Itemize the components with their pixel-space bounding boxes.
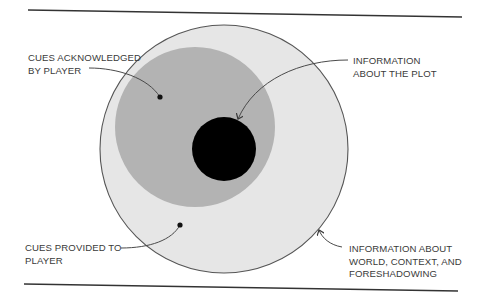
bottom-rule-line <box>24 284 458 291</box>
label-info-world: INFORMATION ABOUT WORLD, CONTEXT, AND FO… <box>349 243 462 281</box>
arrow-info-world <box>319 230 342 247</box>
top-rule-line <box>28 10 462 17</box>
label-cues-provided-line2: PLAYER <box>25 255 122 268</box>
label-cues-acknowledged: CUES ACKNOWLEDGED BY PLAYER <box>28 52 141 77</box>
label-cues-acknowledged-line2: BY PLAYER <box>28 65 141 78</box>
label-cues-provided: CUES PROVIDED TO PLAYER <box>25 242 122 267</box>
dot-marker-cues-acknowledged <box>157 94 162 99</box>
label-info-world-line3: FORESHADOWING <box>349 268 462 281</box>
label-info-world-line2: WORLD, CONTEXT, AND <box>349 256 462 269</box>
label-cues-acknowledged-line1: CUES ACKNOWLEDGED <box>28 52 141 65</box>
label-cues-provided-line1: CUES PROVIDED TO <box>25 242 122 255</box>
label-info-world-line1: INFORMATION ABOUT <box>349 243 462 256</box>
inner-circle-plot-information <box>192 117 256 181</box>
label-info-plot-line1: INFORMATION <box>353 55 437 68</box>
label-info-plot: INFORMATION ABOUT THE PLOT <box>353 55 437 80</box>
label-info-plot-line2: ABOUT THE PLOT <box>353 68 437 81</box>
dot-marker-cues-provided <box>177 222 182 227</box>
